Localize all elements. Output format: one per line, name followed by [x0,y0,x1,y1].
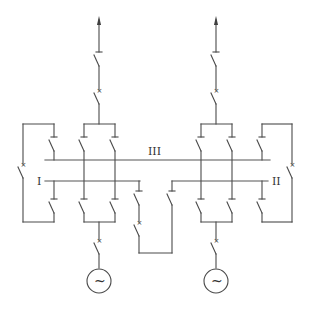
bus-II-label: II [272,176,281,187]
right-bay-top-disconnectors [196,124,235,199]
breaker-mark: × [214,237,220,245]
left-generator-branch: × ~ [87,222,111,293]
generator-symbol: ~ [94,273,106,289]
right-bypass-loop: × [257,124,295,222]
breaker-mark: × [97,87,103,95]
bus-III-label: III [148,146,161,157]
breaker-mark: × [97,237,103,245]
generator-symbol: ~ [211,273,223,289]
right-generator-branch: × ~ [204,222,228,293]
breaker-mark: × [214,87,220,95]
left-outgoing-feeder: × [84,16,115,124]
right-outgoing-feeder: × [201,16,232,124]
bus-I-label: I [37,176,41,187]
left-bay-bottom-disconnectors [79,199,118,222]
breaker-mark: × [290,161,296,169]
bus-coupler: × [134,181,175,253]
left-bypass-loop: × [18,124,57,222]
breaker-mark: × [137,219,143,227]
left-bay-top-disconnectors [79,124,118,199]
breaker-mark: × [21,161,27,169]
right-bay-bottom-disconnectors [196,199,235,222]
